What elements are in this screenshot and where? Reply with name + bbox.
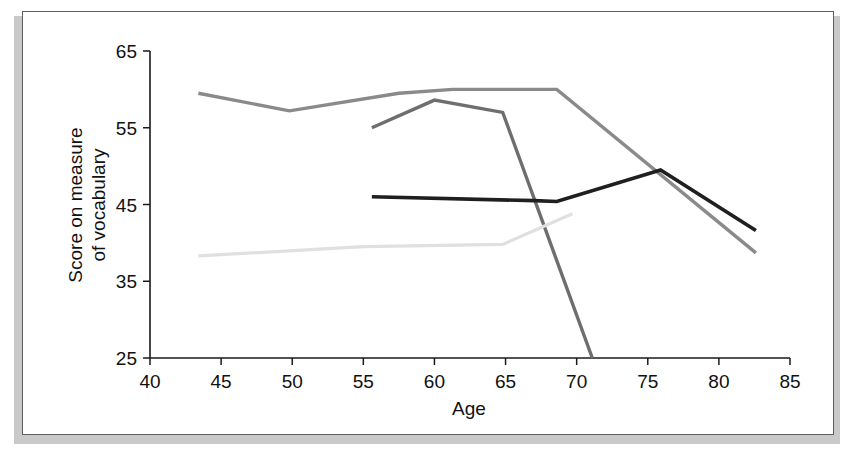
series-line-cohort-dark-gray bbox=[372, 100, 592, 358]
vocabulary-line-chart: 2535455565 40455055606570758085 Age Scor… bbox=[0, 0, 856, 459]
x-tick-label-55: 55 bbox=[353, 371, 374, 392]
figure-root: 2535455565 40455055606570758085 Age Scor… bbox=[0, 0, 856, 459]
series-line-cohort-light-gray bbox=[198, 214, 572, 256]
y-tick-label-65: 65 bbox=[116, 41, 137, 62]
x-tick-label-45: 45 bbox=[211, 371, 232, 392]
y-axis-ticks bbox=[143, 51, 150, 358]
y-axis-title-line-1: Score on measure bbox=[65, 127, 86, 282]
x-axis-ticks bbox=[150, 358, 790, 365]
data-series-group bbox=[198, 89, 756, 358]
series-line-cohort-black bbox=[372, 170, 756, 231]
x-tick-label-75: 75 bbox=[637, 371, 658, 392]
x-tick-label-70: 70 bbox=[566, 371, 587, 392]
x-tick-label-60: 60 bbox=[424, 371, 445, 392]
x-tick-label-80: 80 bbox=[708, 371, 729, 392]
x-axis-title: Age bbox=[452, 398, 486, 419]
y-axis-title-line-2: of vocabulary bbox=[88, 148, 109, 262]
y-axis-tick-labels: 2535455565 bbox=[116, 41, 137, 369]
x-tick-label-85: 85 bbox=[779, 371, 800, 392]
y-tick-label-35: 35 bbox=[116, 271, 137, 292]
y-tick-label-45: 45 bbox=[116, 195, 137, 216]
series-line-cohort-medium-gray bbox=[198, 89, 756, 252]
y-axis-title: Score on measure of vocabulary bbox=[65, 127, 109, 282]
x-tick-label-65: 65 bbox=[495, 371, 516, 392]
x-tick-label-40: 40 bbox=[139, 371, 160, 392]
y-tick-label-25: 25 bbox=[116, 348, 137, 369]
x-axis-tick-labels: 40455055606570758085 bbox=[139, 371, 800, 392]
x-tick-label-50: 50 bbox=[282, 371, 303, 392]
y-tick-label-55: 55 bbox=[116, 118, 137, 139]
